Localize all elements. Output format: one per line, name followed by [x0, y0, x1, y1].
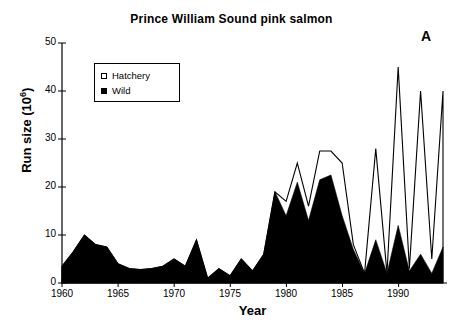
legend: Hatchery Wild: [94, 63, 180, 102]
legend-item-wild: Wild: [101, 85, 130, 96]
chart-figure: Prince William Sound pink salmon A Run s…: [0, 0, 463, 330]
filled-square-icon: [101, 88, 107, 94]
legend-label-wild: Wild: [112, 85, 130, 96]
plot-canvas: [0, 0, 463, 330]
legend-item-hatchery: Hatchery: [101, 70, 150, 81]
legend-label-hatchery: Hatchery: [112, 70, 150, 81]
hollow-square-icon: [101, 73, 107, 79]
